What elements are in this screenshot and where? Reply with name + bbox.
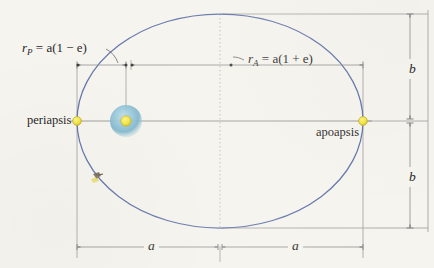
- semi-minor-top-label: b: [405, 59, 420, 79]
- rp-arrow-endpoint-dot: [125, 64, 128, 67]
- ra-arrow-midpoint-dot: [230, 64, 233, 67]
- apoapsis-label: apoapsis: [316, 126, 359, 139]
- rp-arrow-startpoint-dot: [77, 64, 80, 67]
- rp-equation-label: rP = a(1 − e): [22, 41, 87, 57]
- orbit-diagram-figure: periapsis apoapsis rP = a(1 − e) rA = a(…: [0, 0, 434, 268]
- ra-arrow-startpoint-dot: [131, 64, 134, 67]
- rp-equation-body: = a(1 − e): [33, 40, 87, 55]
- ra-equation-label: rA = a(1 + e): [248, 52, 313, 68]
- semi-major-right-label: a: [288, 239, 303, 253]
- semi-major-left-label: a: [144, 239, 159, 253]
- periapsis-label: periapsis: [27, 114, 71, 127]
- periapsis-marker: [73, 117, 82, 126]
- planet-core-marker: [121, 116, 131, 126]
- semi-minor-bottom-label: b: [405, 167, 420, 187]
- apoapsis-marker: [359, 117, 368, 126]
- ra-equation-body: = a(1 + e): [259, 51, 313, 66]
